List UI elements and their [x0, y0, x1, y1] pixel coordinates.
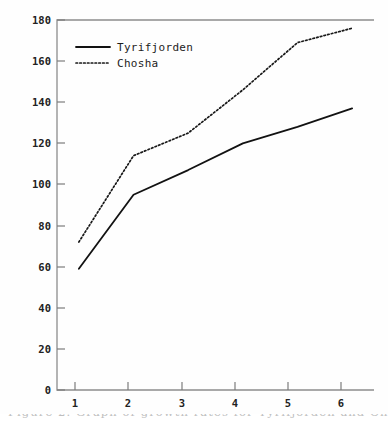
y-tick-label: 60: [38, 261, 51, 273]
plot-frame: [57, 20, 374, 390]
y-tick-label: 40: [38, 302, 51, 314]
y-tick-label: 120: [32, 137, 51, 149]
legend-label-chosha: Chosha: [117, 57, 159, 70]
y-axis-tick-labels: 180 160 140 120 100 80 60 40 20 0: [32, 14, 51, 396]
x-tick-label: 5: [285, 397, 291, 409]
x-tick-label: 3: [179, 397, 185, 409]
caption-strip: Figure 2. Graph of growth rates for Tyri…: [0, 414, 388, 431]
y-axis-ticks: [57, 20, 65, 390]
y-tick-label: 140: [32, 96, 51, 108]
chart-legend: Tyrifjorden Chosha: [76, 41, 193, 70]
y-tick-label: 0: [45, 384, 51, 396]
y-tick-label: 100: [32, 178, 51, 190]
x-tick-label: 6: [338, 397, 344, 409]
y-tick-label: 20: [38, 343, 51, 355]
y-tick-label: 160: [32, 55, 51, 67]
x-axis-tick-labels: 1 2 3 4 5 6: [72, 397, 344, 409]
x-axis-ticks: [75, 382, 341, 390]
legend-label-tyrifjorden: Tyrifjorden: [117, 41, 193, 54]
y-tick-label: 180: [32, 14, 51, 26]
series-line-tyrifjorden: [79, 108, 352, 268]
x-tick-label: 1: [72, 397, 78, 409]
figure-container: 180 160 140 120 100 80 60 40 20 0 1 2 3 …: [0, 0, 388, 431]
x-tick-label: 4: [232, 397, 238, 409]
y-tick-label: 80: [38, 220, 51, 232]
x-tick-label: 2: [125, 397, 131, 409]
caption-text: Figure 2. Graph of growth rates for Tyri…: [8, 414, 380, 419]
line-chart: 180 160 140 120 100 80 60 40 20 0 1 2 3 …: [0, 0, 388, 431]
